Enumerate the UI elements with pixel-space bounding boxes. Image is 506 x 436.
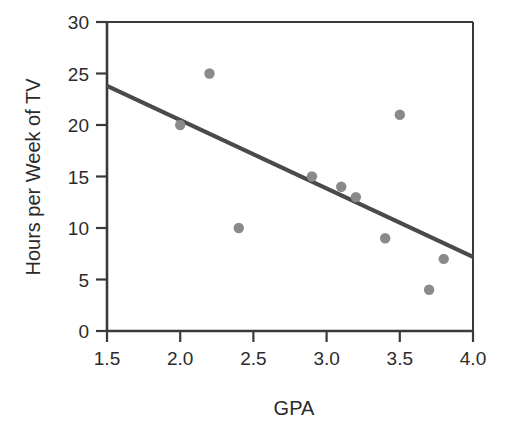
data-point [395,110,405,120]
x-tick-label-3.0: 3.0 [313,348,339,369]
data-point [234,223,244,233]
data-point [204,68,214,78]
data-point [175,120,185,130]
chart-figure: 1.52.02.53.03.54.0 051015202530 GPA Hour… [0,0,506,436]
x-tick-label-4.0: 4.0 [460,348,486,369]
y-tick-label-15: 15 [68,167,89,188]
x-tick-label-1.5: 1.5 [94,348,120,369]
y-tick-label-25: 25 [68,64,89,85]
data-point [424,285,434,295]
data-point [351,192,361,202]
data-point [307,171,317,181]
y-tick-label-10: 10 [68,218,89,239]
scatter-plot: 1.52.02.53.03.54.0 051015202530 GPA Hour… [0,0,506,436]
y-tick-label-20: 20 [68,115,89,136]
x-tick-label-2.0: 2.0 [167,348,193,369]
y-tick-label-0: 0 [78,321,89,342]
x-tick-label-2.5: 2.5 [240,348,266,369]
y-tick-label-30: 30 [68,12,89,33]
x-tick-label-3.5: 3.5 [387,348,413,369]
y-tick-label-5: 5 [78,270,89,291]
data-point [380,233,390,243]
data-point [439,254,449,264]
y-axis-title: Hours per Week of TV [22,78,44,276]
data-point [336,182,346,192]
x-axis-title: GPA [274,397,315,419]
